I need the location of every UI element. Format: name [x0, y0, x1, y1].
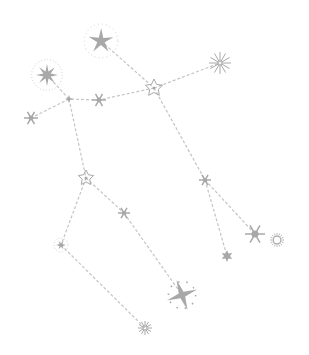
constellation-diagram [0, 0, 309, 355]
constellation-line [61, 245, 145, 328]
star-icon [245, 225, 265, 242]
star-icon [167, 280, 197, 310]
constellation-canvas [0, 0, 309, 355]
constellation-line [101, 41, 154, 88]
star-icon [145, 79, 162, 95]
star-icon [65, 95, 73, 103]
constellation-stars [24, 24, 284, 335]
constellation-line [31, 99, 69, 118]
star-icon [32, 60, 63, 91]
constellation-line [124, 213, 182, 295]
star-icon [24, 112, 38, 124]
constellation-line [69, 99, 86, 178]
star-icon [199, 175, 211, 185]
constellation-line [61, 178, 86, 245]
star-icon [84, 24, 118, 58]
constellation-line [154, 63, 220, 88]
constellation-line [99, 88, 154, 100]
star-icon [92, 94, 106, 106]
constellation-line [86, 178, 124, 213]
constellation-line [205, 180, 255, 234]
star-icon [270, 233, 284, 247]
star-icon [222, 250, 232, 262]
constellation-line [154, 88, 205, 180]
constellation-lines [31, 41, 255, 328]
